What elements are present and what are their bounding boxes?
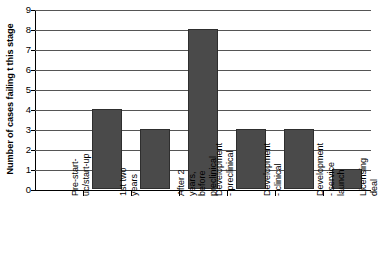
bar	[284, 129, 314, 189]
y-tick-label: 3	[19, 125, 31, 135]
y-axis-title: Number of cases failing t this stage	[0, 0, 18, 198]
label-line: - preclinical	[224, 143, 235, 196]
label-line: before	[197, 156, 208, 196]
label-line: deal	[368, 158, 379, 196]
y-tick-label: 7	[19, 45, 31, 55]
y-tick-label: 6	[19, 65, 31, 75]
x-axis-category-label-text: 1st twoyears	[118, 167, 139, 196]
y-axis-tick-mark	[31, 70, 35, 71]
x-axis-category-label: Development- preclinical	[214, 196, 235, 269]
y-axis-tick-mark	[31, 30, 35, 31]
x-axis-category-label: Licensingdeal	[358, 196, 379, 269]
label-line: - clinical	[272, 143, 283, 196]
y-axis-tick-mark	[31, 170, 35, 171]
label-line: Development	[214, 143, 225, 196]
label-line: launch	[336, 143, 347, 196]
x-axis-category-label: Development- servicelaunch	[315, 196, 347, 269]
x-axis-category-label-text: Development- clinical	[262, 143, 283, 196]
x-axis-category-labels: Pre-start-uc/start-up1st twoyearsAfter 2…	[35, 196, 371, 269]
y-axis-tick-mark	[31, 150, 35, 151]
gridline	[35, 10, 371, 11]
y-tick-label: 1	[19, 165, 31, 175]
y-tick-label: 9	[19, 5, 31, 15]
y-axis-title-text: Number of cases failing t this stage	[4, 24, 14, 175]
label-line: Development	[315, 143, 326, 196]
y-tick-label: 0	[19, 185, 31, 195]
y-axis-tick-mark	[31, 130, 35, 131]
y-tick-label: 8	[19, 25, 31, 35]
bar-chart: Number of cases failing t this stage 01…	[0, 0, 386, 269]
label-line: 1st two	[118, 167, 129, 196]
y-axis-tick-mark	[31, 110, 35, 111]
y-axis-tick-mark	[31, 90, 35, 91]
label-line: After 2	[176, 156, 187, 196]
x-axis-category-label: Development- clinical	[262, 196, 283, 269]
y-axis-tick-mark	[31, 50, 35, 51]
x-axis-category-label-text: Pre-start-uc/start-up	[70, 153, 91, 196]
x-axis-category-label: Pre-start-uc/start-up	[70, 196, 91, 269]
y-axis-line	[35, 10, 36, 191]
x-axis-category-label: After 2years,beforepreclinical	[176, 196, 218, 269]
x-axis-category-label-text: After 2years,beforepreclinical	[176, 156, 218, 196]
x-axis-category-label-text: Development- preclinical	[214, 143, 235, 196]
y-axis-tick-labels: 0123456789	[19, 10, 31, 190]
bar	[140, 129, 170, 189]
label-line: years	[128, 167, 139, 196]
label-line: years,	[187, 156, 198, 196]
y-tick-label: 2	[19, 145, 31, 155]
x-axis-category-label-text: Licensingdeal	[358, 158, 379, 196]
label-line: Pre-start-	[70, 153, 81, 196]
y-axis-tick-mark	[31, 10, 35, 11]
y-tick-label: 4	[19, 105, 31, 115]
label-line: uc/start-up	[80, 153, 91, 196]
x-axis-category-label: 1st twoyears	[118, 196, 139, 269]
label-line: Development	[262, 143, 273, 196]
x-axis-category-label-text: Development- servicelaunch	[315, 143, 347, 196]
label-line: - service	[325, 143, 336, 196]
y-tick-label: 5	[19, 85, 31, 95]
label-line: Licensing	[358, 158, 369, 196]
